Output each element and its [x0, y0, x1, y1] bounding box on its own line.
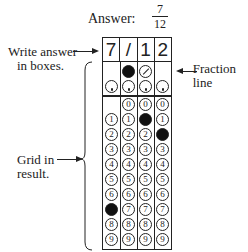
digit-bubble[interactable]: 4: [156, 158, 169, 171]
digit-bubble[interactable]: 5: [105, 173, 118, 186]
digit-bubble[interactable]: 0: [139, 98, 152, 111]
answer-box[interactable]: 1: [138, 38, 155, 61]
digit-bubble[interactable]: 3: [139, 143, 152, 156]
arrow-line: [183, 71, 197, 72]
digit-bubble[interactable]: 6: [105, 188, 118, 201]
digit-bubble[interactable]: 3: [105, 143, 118, 156]
digit-bubble[interactable]: 3: [122, 143, 135, 156]
fraction-denominator: 12: [152, 16, 168, 31]
digit-bubble-filled[interactable]: [139, 113, 152, 126]
digit-bubble[interactable]: 7: [122, 203, 135, 216]
digit-bubble[interactable]: 5: [139, 173, 152, 186]
decimal-bubble[interactable]: [105, 80, 118, 93]
digit-bubble[interactable]: 9: [105, 233, 118, 246]
digit-bubble[interactable]: 4: [105, 158, 118, 171]
digit-bubble[interactable]: 7: [156, 203, 169, 216]
fraction-numerator: 7: [152, 2, 168, 16]
digit-bubble[interactable]: 8: [105, 218, 118, 231]
grid-in-line1: Grid in: [17, 153, 54, 167]
write-answer-line2: in boxes.: [8, 59, 77, 73]
fraction-line-line1: Fraction: [193, 62, 236, 76]
digit-bubble[interactable]: 0: [122, 98, 135, 111]
digit-bubble[interactable]: 4: [139, 158, 152, 171]
digit-bubble[interactable]: 7: [139, 203, 152, 216]
write-answer-line1: Write answer: [8, 45, 77, 59]
answer-grid: 7 / 1 2 12345689012345678902345678901345…: [102, 37, 172, 250]
answer-box[interactable]: 2: [155, 38, 171, 61]
answer-fraction: 7 12: [152, 2, 168, 31]
digit-bubble[interactable]: 9: [156, 233, 169, 246]
answer-boxes: 7 / 1 2: [103, 38, 171, 62]
digit-bubble[interactable]: 1: [122, 113, 135, 126]
column-divider: [120, 61, 121, 249]
answer-label: Answer:: [88, 11, 135, 27]
decimal-bubble[interactable]: [139, 80, 152, 93]
digit-bubble-filled[interactable]: [156, 128, 169, 141]
answer-box[interactable]: 7: [103, 38, 120, 61]
digit-bubble[interactable]: 2: [105, 128, 118, 141]
digit-bubble[interactable]: 2: [122, 128, 135, 141]
digit-bubble[interactable]: 8: [122, 218, 135, 231]
decimal-bubble[interactable]: [156, 80, 169, 93]
digit-bubble[interactable]: 3: [156, 143, 169, 156]
digit-bubble[interactable]: 6: [122, 188, 135, 201]
answer-box[interactable]: /: [120, 38, 137, 61]
decimal-bubble[interactable]: [122, 80, 135, 93]
digit-bubble[interactable]: 5: [122, 173, 135, 186]
arrow-line: [57, 159, 77, 160]
column-divider: [137, 61, 138, 249]
digit-bubble[interactable]: 2: [139, 128, 152, 141]
digit-bubble[interactable]: 8: [139, 218, 152, 231]
column-divider: [154, 61, 155, 249]
write-answer-label: Write answer in boxes.: [8, 45, 77, 73]
fraction-line-label: Fraction line: [193, 62, 236, 90]
grid-in-line2: result.: [17, 167, 54, 181]
fraction-bubble[interactable]: [139, 65, 152, 78]
digit-bubble[interactable]: 1: [156, 113, 169, 126]
arrow-left-icon: [176, 68, 183, 74]
brace-icon: [80, 60, 94, 252]
digit-bubble[interactable]: 9: [139, 233, 152, 246]
arrow-line: [73, 51, 93, 52]
digit-bubble[interactable]: 8: [156, 218, 169, 231]
digit-bubble[interactable]: 6: [156, 188, 169, 201]
row-divider: [103, 95, 171, 97]
digit-bubble[interactable]: 4: [122, 158, 135, 171]
digit-bubble[interactable]: 0: [156, 98, 169, 111]
digit-bubble[interactable]: 1: [105, 113, 118, 126]
fraction-line-line2: line: [193, 76, 236, 90]
digit-bubble[interactable]: 9: [122, 233, 135, 246]
grid-in-label: Grid in result.: [17, 153, 54, 181]
arrow-right-icon: [92, 48, 99, 54]
digit-bubble-filled[interactable]: [105, 203, 118, 216]
fraction-bubble-filled[interactable]: [122, 65, 135, 78]
digit-bubble[interactable]: 5: [156, 173, 169, 186]
digit-bubble[interactable]: 6: [139, 188, 152, 201]
